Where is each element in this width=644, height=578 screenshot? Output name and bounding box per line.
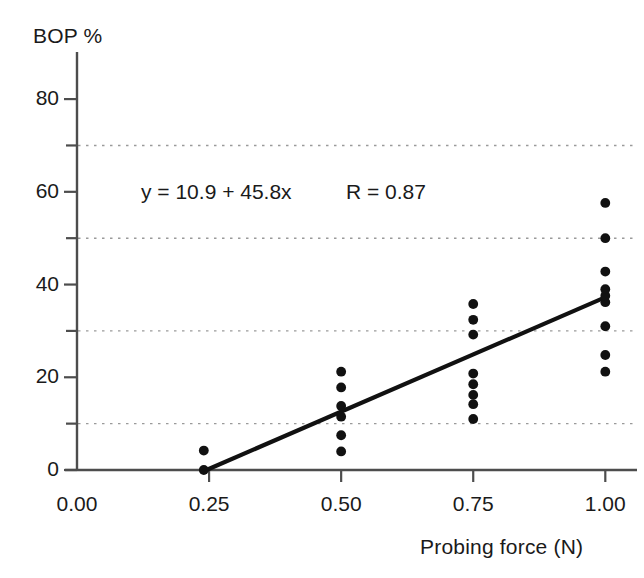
x-tick-label: 0.00 <box>37 492 117 516</box>
data-point <box>468 315 478 325</box>
data-point <box>468 414 478 424</box>
regression-line-segment <box>206 296 608 470</box>
y-tick-label: 40 <box>13 272 59 296</box>
data-point <box>468 399 478 409</box>
data-point <box>600 367 610 377</box>
data-point <box>600 233 610 243</box>
data-point <box>600 321 610 331</box>
data-points-group <box>199 198 610 475</box>
data-point <box>336 430 346 440</box>
data-point <box>600 284 610 294</box>
data-point <box>468 379 478 389</box>
x-tick-label: 0.50 <box>301 492 381 516</box>
y-tick-label: 60 <box>13 179 59 203</box>
y-tick-label: 0 <box>13 457 59 481</box>
data-point <box>336 412 346 422</box>
x-tick-label: 0.75 <box>433 492 513 516</box>
y-tick-label: 80 <box>13 86 59 110</box>
x-tick-label: 1.00 <box>565 492 644 516</box>
data-point <box>468 299 478 309</box>
chart-figure: BOP % y = 10.9 + 45.8x R = 0.87 Probing … <box>0 0 644 578</box>
data-point <box>199 465 209 475</box>
x-axis-title: Probing force (N) <box>420 535 583 559</box>
y-tick-label: 20 <box>13 364 59 388</box>
x-tick-label: 0.25 <box>169 492 249 516</box>
data-point <box>199 446 209 456</box>
gridlines-group <box>78 145 637 423</box>
data-point <box>336 383 346 393</box>
data-point <box>336 367 346 377</box>
data-point <box>468 330 478 340</box>
data-point <box>600 267 610 277</box>
data-point <box>468 390 478 400</box>
data-point <box>336 447 346 457</box>
data-point <box>600 350 610 360</box>
data-point <box>336 401 346 411</box>
data-point <box>600 198 610 208</box>
data-point <box>468 369 478 379</box>
tick-marks-group <box>64 99 605 482</box>
regression-line <box>206 296 608 470</box>
